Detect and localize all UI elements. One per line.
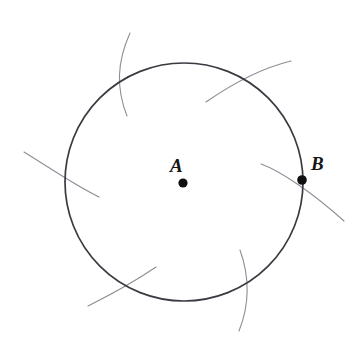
point-a-dot bbox=[178, 178, 187, 187]
point-b-dot bbox=[297, 175, 307, 185]
geometry-figure: A B bbox=[0, 0, 362, 350]
arc-bottom-right bbox=[239, 250, 247, 331]
arc-top bbox=[119, 33, 130, 116]
point-b-label: B bbox=[311, 154, 324, 173]
arc-bottom-left bbox=[88, 267, 156, 306]
point-a-label: A bbox=[170, 156, 183, 175]
arc-left bbox=[24, 152, 99, 197]
